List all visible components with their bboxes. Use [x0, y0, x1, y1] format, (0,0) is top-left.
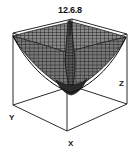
figure-container: 12.6.8 — [0, 0, 140, 160]
paraboloid-surface — [13, 20, 126, 95]
axis-label-y: Y — [9, 113, 14, 122]
box-edge-floor-front-left — [13, 105, 67, 131]
box-edge-floor-front-right — [67, 104, 127, 131]
axis-label-z: Z — [119, 79, 124, 88]
axis-label-x: X — [68, 139, 73, 148]
